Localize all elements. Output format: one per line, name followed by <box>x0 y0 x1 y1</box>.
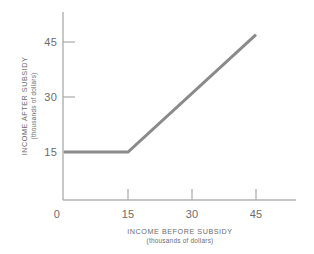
x-axis-ticks <box>128 189 256 200</box>
x-axis-subtitle: (thousands of dollars) <box>147 237 214 245</box>
y-tick-label-45: 45 <box>44 36 57 48</box>
x-tick-label-15: 15 <box>122 208 135 220</box>
y-tick-label-30: 30 <box>44 91 57 103</box>
y-tick-label-15: 15 <box>44 146 57 158</box>
x-tick-label-45: 45 <box>250 208 263 220</box>
x-axis-title: INCOME BEFORE SUBSIDY <box>127 227 232 236</box>
x-tick-label-0: 0 <box>54 208 60 220</box>
series-line-income-after-subsidy <box>64 35 256 152</box>
x-tick-label-30: 30 <box>186 208 199 220</box>
y-axis-title: INCOME AFTER SUBSIDY <box>20 57 29 155</box>
y-axis-subtitle: (thousands of dollars) <box>30 73 38 140</box>
income-subsidy-line-chart: 45 30 15 0 15 30 45 INCOME BEFORE SUBSID… <box>0 0 314 254</box>
y-axis-ticks <box>63 42 75 152</box>
chart-container: 45 30 15 0 15 30 45 INCOME BEFORE SUBSID… <box>0 0 314 254</box>
